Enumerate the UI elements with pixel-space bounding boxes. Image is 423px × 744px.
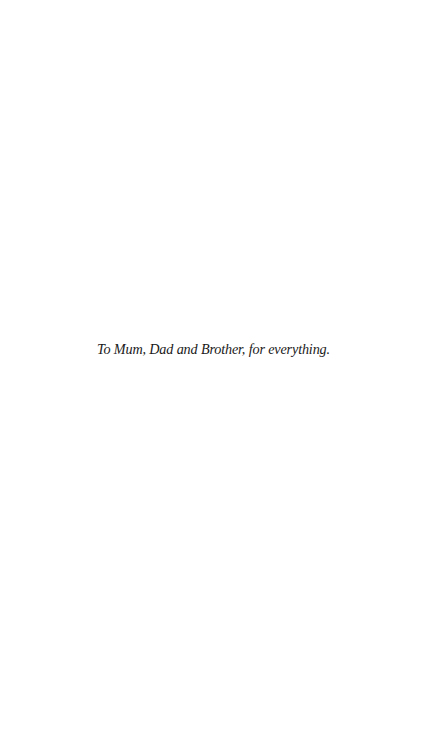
book-page: To Mum, Dad and Brother, for everything. <box>0 0 423 744</box>
dedication-text: To Mum, Dad and Brother, for everything. <box>97 340 317 358</box>
